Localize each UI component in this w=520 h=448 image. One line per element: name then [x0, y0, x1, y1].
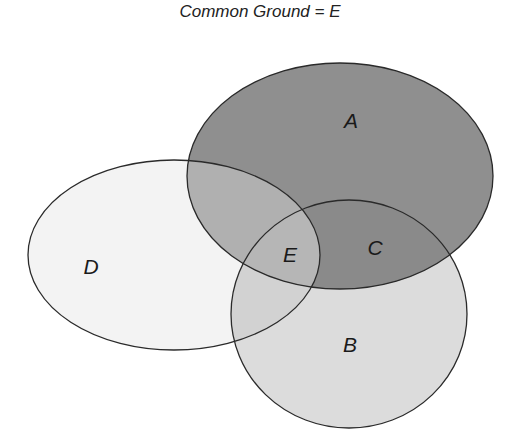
venn-diagram: A D E C B: [0, 0, 520, 448]
label-a: A: [342, 109, 358, 132]
label-c: C: [367, 236, 383, 259]
label-d: D: [83, 255, 98, 278]
label-e: E: [283, 243, 298, 266]
label-b: B: [343, 333, 357, 356]
